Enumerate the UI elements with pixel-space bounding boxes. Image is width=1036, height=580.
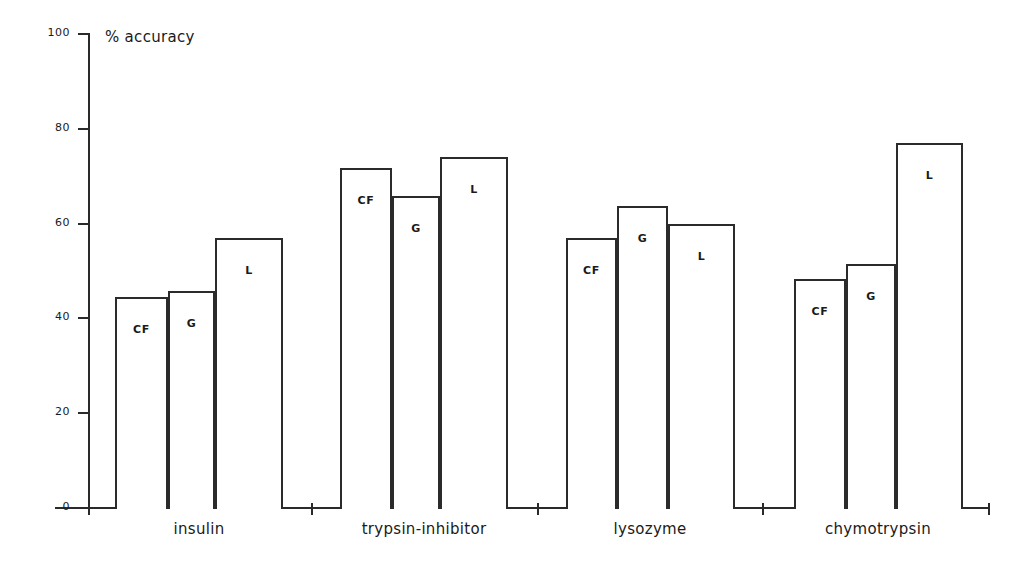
bar-series-label: G [866,290,876,303]
bar-insulin-L [215,238,283,509]
bar-trypsin-inhibitor-CF [340,168,392,509]
y-tick-mark [78,33,90,35]
group-label-chymotrypsin: chymotrypsin [825,520,931,538]
bar-chart: % accuracy 020406080100 CFGLCFGLCFGLCFGL… [0,0,1036,580]
bar-series-label: L [470,183,478,196]
group-label-lysozyme: lysozyme [613,520,686,538]
y-tick-label: 60 [30,217,70,228]
y-tick-label: 20 [30,406,70,417]
x-group-separator-tick [88,503,90,515]
y-tick-mark [78,317,90,319]
y-tick-label: 40 [30,311,70,322]
bar-lysozyme-G [617,206,668,509]
y-axis-title: % accuracy [105,28,195,46]
bar-lysozyme-CF [566,238,617,509]
y-axis-line [88,33,90,509]
bar-series-label: G [638,232,648,245]
bar-lysozyme-L [668,224,735,509]
bar-series-label: CF [133,323,150,336]
bar-series-label: CF [358,194,375,207]
bar-series-label: CF [583,264,600,277]
y-tick-label: 0 [30,501,70,512]
bar-series-label: L [926,169,934,182]
y-tick-label: 100 [30,27,70,38]
bar-series-label: L [698,250,706,263]
x-group-separator-tick [988,503,990,515]
bar-series-label: G [411,222,421,235]
bar-series-label: G [187,317,197,330]
group-label-insulin: insulin [174,520,225,538]
x-group-separator-tick [311,503,313,515]
x-group-separator-tick [537,503,539,515]
bar-chymotrypsin-L [896,143,963,509]
group-label-trypsin-inhibitor: trypsin-inhibitor [362,520,487,538]
bar-trypsin-inhibitor-L [440,157,508,509]
y-tick-mark [78,128,90,130]
bar-series-label: L [245,264,253,277]
y-tick-mark [78,412,90,414]
bar-trypsin-inhibitor-G [392,196,440,509]
y-tick-label: 80 [30,122,70,133]
bar-series-label: CF [812,305,829,318]
x-group-separator-tick [762,503,764,515]
y-tick-mark [78,223,90,225]
